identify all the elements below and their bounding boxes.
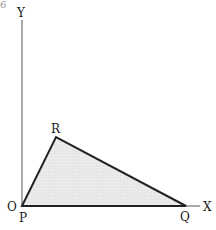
vertex-label-r: R	[51, 122, 61, 136]
coordinate-diagram: 6 Y X O P Q R	[0, 0, 216, 230]
vertex-label-q: Q	[180, 210, 190, 224]
triangle-pqr	[22, 137, 186, 206]
corner-fragment: 6	[0, 0, 6, 10]
vertex-label-p: P	[19, 211, 27, 225]
x-axis-label: X	[203, 200, 212, 214]
origin-label: O	[7, 200, 17, 214]
y-axis-label: Y	[16, 6, 26, 20]
